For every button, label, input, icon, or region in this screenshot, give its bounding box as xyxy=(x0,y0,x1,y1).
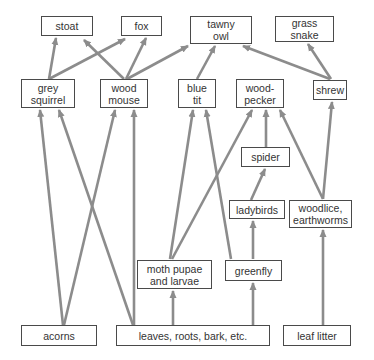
arrow-leaves-to-grey_squirrel xyxy=(59,110,133,325)
arrow-grey_squirrel-to-fox xyxy=(49,39,125,79)
node-tawny-owl: tawny owl xyxy=(190,16,252,44)
arrow-acorns-to-grey_squirrel xyxy=(40,110,63,325)
food-web-diagram: stoatfoxtawny owlgrass snakegrey squirre… xyxy=(0,0,374,360)
node-fox: fox xyxy=(121,16,162,36)
node-stoat: stoat xyxy=(41,16,93,36)
node-blue-tit: blue tit xyxy=(178,79,216,108)
node-woodpecker: wood- pecker xyxy=(236,79,284,108)
node-moth: moth pupae and larvae xyxy=(137,260,212,289)
node-acorns: acorns xyxy=(21,325,97,346)
arrow-blue_tit-to-tawny_owl xyxy=(197,46,215,79)
arrow-shrew-to-tawny_owl xyxy=(243,46,330,79)
arrows-layer xyxy=(0,0,374,360)
arrow-wood_mouse-to-tawny_owl xyxy=(127,46,188,79)
node-ladybirds: ladybirds xyxy=(229,200,285,219)
arrow-moth-to-woodpecker xyxy=(172,110,252,259)
node-grass-snake: grass snake xyxy=(275,16,334,42)
node-spider: spider xyxy=(241,147,290,167)
arrow-acorns-to-wood_mouse xyxy=(64,110,115,325)
node-wood-mouse: wood mouse xyxy=(100,79,148,108)
node-leaves: leaves, roots, bark, etc. xyxy=(116,325,270,346)
node-leaf-litter: leaf litter xyxy=(283,325,351,346)
node-greenfly: greenfly xyxy=(225,260,282,281)
arrow-wood_mouse-to-stoat xyxy=(84,40,124,79)
node-shrew: shrew xyxy=(313,80,347,100)
arrow-greenfly-to-blue_tit xyxy=(206,110,231,259)
arrow-grey_squirrel-to-stoat xyxy=(49,38,56,79)
arrow-ladybirds-to-spider xyxy=(251,169,265,200)
node-grey-squirrel: grey squirrel xyxy=(21,79,75,108)
node-woodlice: woodlice, earthworms xyxy=(289,200,352,228)
arrow-woodlice-to-shrew xyxy=(323,102,332,199)
arrow-moth-to-blue_tit xyxy=(170,110,193,259)
